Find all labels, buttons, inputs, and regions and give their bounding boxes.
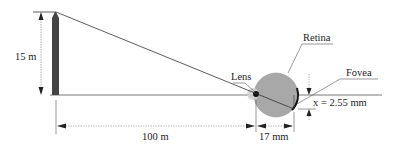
arrow-down-icon [307,88,312,95]
height-label: 15 m [15,51,36,62]
arrow-down-icon [39,87,44,95]
retina-leader [288,44,333,73]
arrow-right-icon [284,124,293,129]
object-tree [52,11,59,95]
arrow-left-icon [257,124,266,129]
arrow-up-icon [307,109,312,116]
light-ray [56,12,294,109]
retina-label: Retina [303,32,331,43]
eye-length-label: 17 mm [259,131,288,142]
arrow-up-icon [39,12,44,20]
eye-optics-diagram: 15 m Lens Retina Fovea x = 2.55 mm 100 m… [0,0,395,148]
arrow-right-icon [246,124,255,129]
object-distance-label: 100 m [142,131,169,142]
lens-label: Lens [231,71,251,82]
fovea-label: Fovea [346,67,372,78]
image-size-label: x = 2.55 mm [313,97,367,108]
arrow-left-icon [57,124,66,129]
